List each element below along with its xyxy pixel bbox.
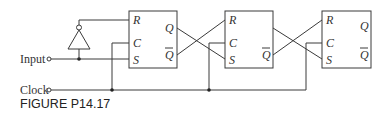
ff1-s-label: S — [133, 53, 139, 67]
ff2-c-label: C — [229, 36, 238, 50]
ff2-r-label: R — [228, 13, 237, 27]
ff3-r-label: R — [325, 13, 334, 27]
ff1-qbar-to-ff2-r-wire — [177, 20, 225, 55]
figure-caption: FIGURE P14.17 — [20, 97, 110, 111]
sr-flip-flop-shift-register-diagram: R C S Q Q R C S Q R C S Q Q Input Clock … — [0, 0, 391, 113]
clock-junction-1 — [110, 88, 114, 92]
clock-to-ff1-c-wire — [112, 43, 129, 90]
inverter-gate-icon — [68, 30, 90, 49]
input-terminal — [47, 57, 51, 61]
ff2-qbar-label: Q — [262, 48, 271, 62]
ff2-qbar-to-ff3-r-wire — [273, 20, 322, 55]
ff3-s-label: S — [326, 53, 332, 67]
clock-bus-wire — [51, 43, 322, 90]
clock-label: Clock — [20, 83, 49, 97]
inverter-bubble — [77, 25, 82, 30]
ff1-q-label: Q — [165, 21, 174, 35]
ff1-qbar-label: Q — [165, 48, 174, 62]
ff3-c-label: C — [326, 36, 335, 50]
clock-junction-2 — [207, 88, 211, 92]
clock-terminal — [47, 88, 51, 92]
ff1-r-label: R — [132, 13, 141, 27]
ff2-s-label: S — [229, 53, 235, 67]
ff3-qbar-label: Q — [360, 48, 369, 62]
inverter-to-ff1-r-wire — [79, 20, 129, 25]
ff1-c-label: C — [133, 36, 142, 50]
ff3-q-label: Q — [360, 19, 369, 33]
input-label: Input — [20, 52, 46, 66]
